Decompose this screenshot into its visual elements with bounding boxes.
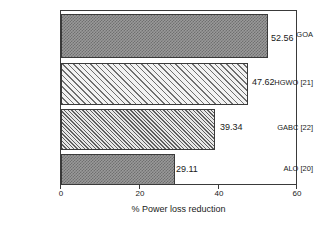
xtick-label-0: 0 (59, 189, 63, 199)
bar-value-alo: 29.11 (176, 164, 198, 174)
category-label-hgwo: HGWO [21] (258, 78, 316, 87)
xtick-label-20: 20 (136, 189, 145, 199)
category-label-goa: GOA (258, 30, 316, 39)
bar-chart-figure: 52.56 47.62 39.34 29.11 GOA HGWO [21] GA… (0, 0, 316, 228)
xtick-label-40: 40 (215, 189, 224, 199)
bar-gabc (61, 109, 215, 150)
bar-goa (61, 14, 268, 58)
category-label-gabc: GABC [22] (258, 123, 316, 132)
bar-value-gabc: 39.34 (220, 122, 243, 132)
x-axis-title: % Power loss reduction (60, 204, 297, 215)
xtick-label-60: 60 (293, 189, 302, 199)
bar-alo (61, 154, 175, 185)
bar-hgwo (61, 63, 248, 105)
category-label-alo: ALO [20] (258, 164, 316, 173)
